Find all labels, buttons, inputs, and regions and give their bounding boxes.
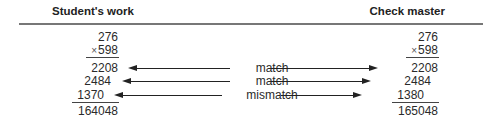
student-multiplier-row: ×598: [91, 44, 118, 57]
master-total: 165048: [398, 105, 438, 118]
master-multiplier-row: ×598: [411, 44, 438, 57]
master-multiplier: 598: [418, 43, 438, 57]
arrow-line-left: [130, 81, 230, 82]
master-underline-1: [406, 57, 439, 58]
header-student-work: Student's work: [52, 5, 134, 17]
arrow-right-icon: [362, 78, 371, 84]
student-underline-1: [86, 57, 119, 58]
student-multiplier: 598: [98, 43, 118, 57]
header-check-master: Check master: [370, 5, 445, 17]
header-rule: [19, 23, 483, 25]
times-icon: ×: [91, 45, 97, 56]
arrow-line-left: [136, 68, 230, 69]
comparison-row-1: match: [0, 62, 497, 75]
arrow-line-right: [281, 95, 354, 96]
arrow-right-icon: [369, 65, 378, 71]
comparison-row-3: mismatch: [0, 89, 497, 102]
arrow-line-right: [271, 68, 370, 69]
student-total: 164048: [78, 105, 118, 118]
times-icon: ×: [411, 45, 417, 56]
arrow-line-left: [122, 95, 222, 96]
comparison-row-2: match: [0, 75, 497, 88]
student-underline-2: [72, 102, 119, 103]
arrow-right-icon: [353, 92, 362, 98]
master-underline-2: [392, 102, 439, 103]
arrow-line-right: [271, 81, 363, 82]
